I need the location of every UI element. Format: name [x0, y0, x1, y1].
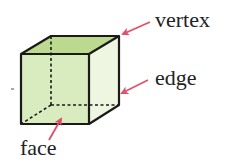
edge-arrow [122, 80, 148, 93]
vertex-arrow [123, 22, 150, 34]
cube-diagram: vertex edge face [0, 0, 230, 161]
edge-label: edge [155, 67, 197, 89]
front-face [21, 54, 89, 124]
vertex-label: vertex [155, 9, 210, 31]
face-label: face [20, 137, 57, 159]
